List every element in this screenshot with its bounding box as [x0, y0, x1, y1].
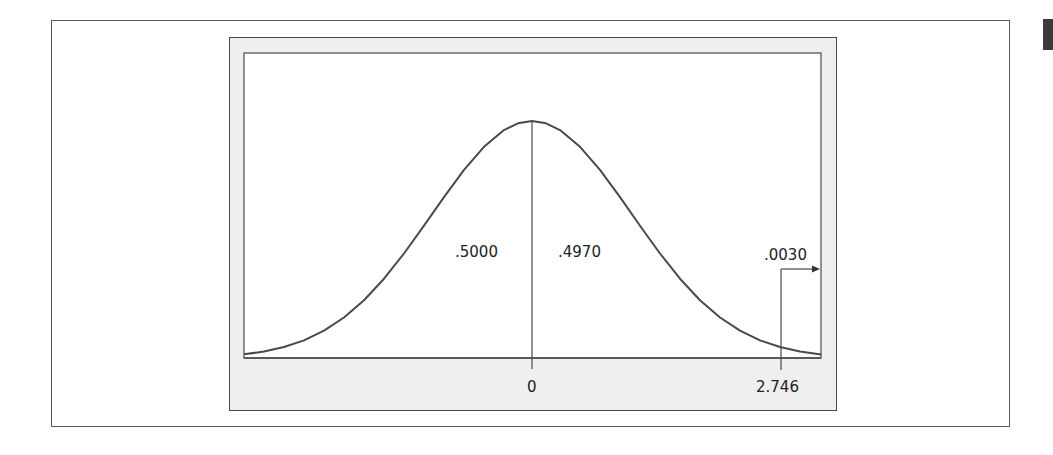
middle-area-label: .4970 — [558, 245, 601, 260]
left-area-label: .5000 — [455, 245, 498, 260]
tick-label-critical: 2.746 — [756, 380, 799, 395]
tick-label-zero: 0 — [527, 380, 537, 395]
tail-area-label: .0030 — [764, 248, 807, 263]
